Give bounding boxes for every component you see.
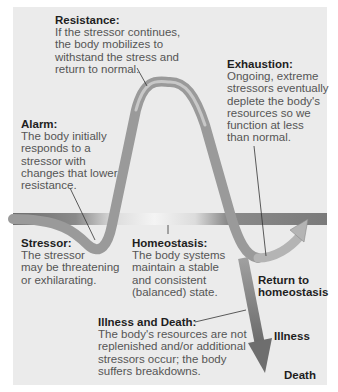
exhaustion-title: Exhaustion: <box>227 58 329 70</box>
homeostasis-title: Homeostasis: <box>132 237 225 249</box>
illness-death-label: Illness and Death: The body's resources … <box>98 316 247 377</box>
stressor-label: Stressor: The stressor may be threatenin… <box>21 237 119 286</box>
alarm-text: The body initially responds to a stresso… <box>21 130 118 191</box>
illness-death-title: Illness and Death: <box>98 316 247 328</box>
exhaustion-label: Exhaustion: Ongoing, extreme stressors e… <box>227 58 329 143</box>
alarm-label: Alarm: The body initially responds to a … <box>21 118 118 191</box>
illness-outcome-label: Illness <box>274 330 310 342</box>
resistance-title: Resistance: <box>55 14 180 26</box>
resistance-label: Resistance: If the stressor continues, t… <box>55 14 180 75</box>
illness-death-text: The body's resources are not replenished… <box>98 328 247 377</box>
exhaustion-leader <box>254 146 266 256</box>
resistance-text: If the stressor continues, the body mobi… <box>55 26 180 75</box>
death-outcome-label: Death <box>284 369 316 381</box>
homeostasis-label: Homeostasis: The body systems maintain a… <box>132 237 225 298</box>
stressor-text: The stressor may be threatening or exhil… <box>21 249 119 286</box>
homeostasis-text: The body systems maintain a stable and c… <box>132 249 225 298</box>
stressor-title: Stressor: <box>21 237 119 249</box>
alarm-title: Alarm: <box>21 118 118 130</box>
exhaustion-text: Ongoing, extreme stressors eventually de… <box>227 70 329 143</box>
death-arrow-head <box>248 338 272 373</box>
return-to-homeostasis-label: Return to homeostasis <box>258 274 328 298</box>
